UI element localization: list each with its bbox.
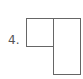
diagram-number-label: 4. — [8, 34, 19, 46]
square-shape — [26, 18, 54, 47]
tall-rectangle-shape — [53, 18, 81, 75]
